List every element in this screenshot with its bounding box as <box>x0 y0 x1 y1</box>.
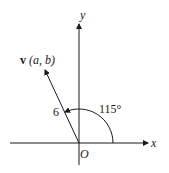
y-axis-label: y <box>79 8 86 22</box>
vector-components-label: (a, b) <box>29 53 55 67</box>
origin-label: O <box>80 147 89 161</box>
vector-name-label: v <box>20 53 26 67</box>
vector-diagram: y x O v (a, b) 6 115° <box>0 0 169 173</box>
magnitude-label: 6 <box>53 105 59 119</box>
x-axis-label: x <box>150 136 157 150</box>
vector-v <box>45 70 79 143</box>
angle-label: 115° <box>99 102 122 116</box>
